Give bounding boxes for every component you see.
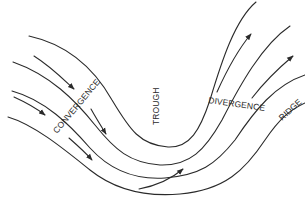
ridge-label: RIDGE	[277, 97, 304, 123]
flow-arrow	[139, 169, 183, 189]
divergence-label: DIVERGENCE	[208, 95, 266, 113]
flow-arrow	[14, 97, 45, 115]
convergence-label: CONVERGENCE	[51, 77, 102, 135]
convergence-divergence-diagram: CONVERGENCE TROUGH DIVERGENCE RIDGE	[0, 0, 305, 202]
trough-label: TROUGH	[151, 88, 161, 125]
flow-arrow	[252, 56, 293, 98]
flow-arrow	[91, 109, 106, 134]
